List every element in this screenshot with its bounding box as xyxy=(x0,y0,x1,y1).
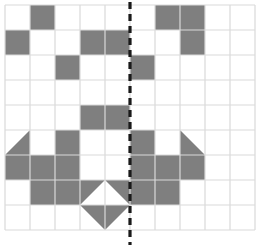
shaded-cell xyxy=(105,30,130,55)
shaded-cell xyxy=(5,155,30,180)
shaded-cell xyxy=(155,155,180,180)
shaded-cell xyxy=(180,155,205,180)
shaded-cell xyxy=(55,130,80,155)
shaded-cell xyxy=(80,30,105,55)
shaded-cell xyxy=(55,180,80,205)
shaded-cell xyxy=(130,55,155,80)
shaded-cell xyxy=(180,30,205,55)
shaded-cell xyxy=(30,180,55,205)
shaded-cell xyxy=(5,30,30,55)
shaded-cell xyxy=(55,155,80,180)
shaded-cell xyxy=(105,105,130,130)
shaded-cell xyxy=(130,155,155,180)
symmetry-grid-figure xyxy=(0,0,258,247)
shaded-cell xyxy=(80,105,105,130)
diagram-canvas xyxy=(0,0,258,247)
shaded-cell xyxy=(130,180,155,205)
shaded-cell xyxy=(155,5,180,30)
shaded-cell xyxy=(55,55,80,80)
shaded-cell xyxy=(180,5,205,30)
shaded-cell xyxy=(30,5,55,30)
shaded-cell xyxy=(30,155,55,180)
shaded-cell xyxy=(130,130,155,155)
shaded-cell xyxy=(155,180,180,205)
